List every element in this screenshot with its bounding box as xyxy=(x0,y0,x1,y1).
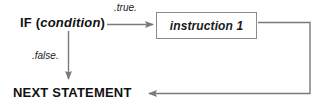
instruction-box: instruction 1 xyxy=(156,12,257,39)
false-branch-label: .false. xyxy=(32,50,59,61)
true-branch-label: .true. xyxy=(114,2,137,13)
if-close-paren: ) xyxy=(101,15,106,30)
if-condition-node: IF (condition) xyxy=(20,15,105,30)
if-condition-label: condition xyxy=(40,15,100,30)
next-statement-node: NEXT STATEMENT xyxy=(13,85,132,100)
flowchart-diagram: IF (condition) .true. .false. instructio… xyxy=(0,0,328,111)
if-keyword: IF xyxy=(20,15,32,30)
instruction-label: instruction 1 xyxy=(170,19,243,33)
